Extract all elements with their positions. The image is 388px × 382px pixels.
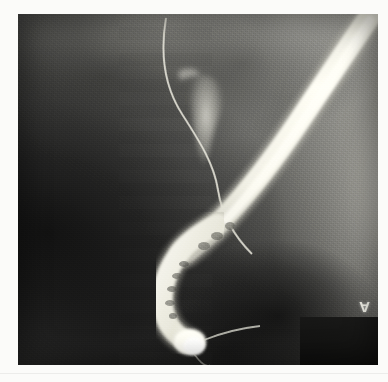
film-grain-layer-2	[18, 14, 378, 365]
corner-label-block	[300, 317, 378, 365]
radiograph-page: A	[0, 0, 388, 382]
radiograph-plate: A	[18, 14, 378, 365]
paper-hairline	[0, 373, 388, 374]
side-marker-letter: A	[357, 300, 370, 315]
